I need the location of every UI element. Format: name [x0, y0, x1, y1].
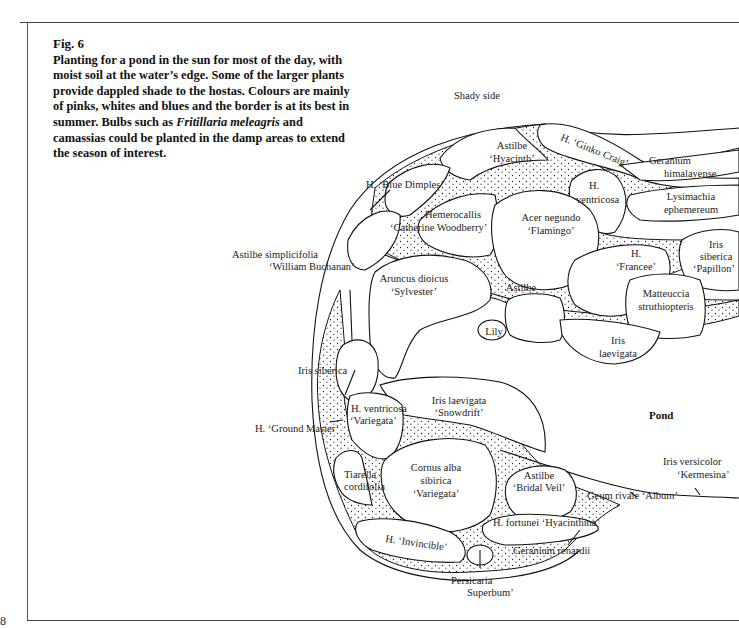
label-h-ground-master: H. ‘Ground Master’ [255, 423, 339, 434]
label-iris-laevigata-snowdrift: Iris laevigata‘Snowdrift’ [432, 395, 487, 418]
label-lily: Lily [485, 326, 503, 337]
label-shady-side: Shady side [454, 90, 500, 101]
label-iris-siberica: Iris siberica [298, 365, 348, 376]
label-astilbe-simplicifolia: Astilbe simplicifolia‘William Buchanan’ [232, 249, 355, 272]
label-h-fortunei: H. fortunei ‘Hyacinthina’ [493, 517, 600, 528]
label-geum: Geum rivale ‘Album’ [587, 490, 678, 501]
bed-astilbe [505, 294, 564, 343]
label-geranium-renardii: Geranium renardii [513, 545, 590, 556]
label-astilbe: Astilbe [506, 282, 537, 293]
pond-planting-diagram: Shady side Pond Astilbe‘Hyacinth’ H. ‘Gi… [0, 0, 739, 628]
label-pond: Pond [649, 409, 673, 421]
bed-william-buchanan [348, 211, 401, 270]
label-iris-versicolor: Iris versicolor‘Kermesina’ [663, 456, 729, 480]
label-h-blue-dimples: H. ‘Blue Dimples’ [366, 179, 444, 190]
